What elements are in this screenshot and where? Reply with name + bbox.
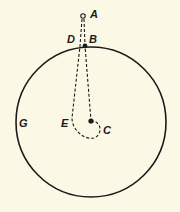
point-b <box>83 44 88 49</box>
diagram-canvas <box>0 0 180 212</box>
label-g: G <box>19 118 28 129</box>
point-c <box>88 118 93 123</box>
point-a <box>81 14 85 18</box>
label-e: E <box>61 118 68 129</box>
label-c: C <box>103 125 111 136</box>
label-a: A <box>90 9 98 20</box>
label-b: B <box>89 34 97 45</box>
label-d: D <box>67 34 75 45</box>
